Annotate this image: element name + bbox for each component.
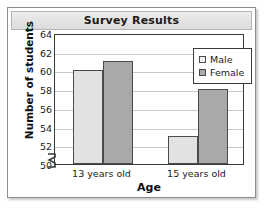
legend-label-female: Female <box>210 67 244 78</box>
legend-swatch-female-icon <box>199 69 206 76</box>
y-axis-tick-label: 52 <box>40 141 52 152</box>
bar-male-0 <box>73 70 103 164</box>
chart-legend: Male Female <box>193 48 252 84</box>
legend-item-female: Female <box>199 66 244 79</box>
bar-female-1 <box>198 89 228 164</box>
y-axis-tick-label: 54 <box>40 122 52 133</box>
bar-female-0 <box>103 61 133 164</box>
y-axis-tick-label: 62 <box>40 47 52 58</box>
legend-item-male: Male <box>199 53 244 66</box>
x-axis-category-label: 15 years old <box>167 168 226 179</box>
x-axis-category-label: 13 years old <box>72 168 131 179</box>
y-axis-tick-label: 60 <box>40 66 52 77</box>
chart-figure: Survey Results Number of students 646260… <box>7 7 256 198</box>
bar-male-1 <box>168 136 198 164</box>
chart-title-bar: Survey Results <box>11 11 252 30</box>
y-axis-tick-label: 64 <box>40 29 52 40</box>
y-axis-tick-label: 56 <box>40 103 52 114</box>
axis-break-icon <box>46 153 62 169</box>
y-axis-tick-labels: 6462605856545250 <box>30 34 52 165</box>
legend-label-male: Male <box>210 54 233 65</box>
y-axis-tick-label: 58 <box>40 85 52 96</box>
page-title: Survey Results <box>84 14 180 27</box>
legend-swatch-male-icon <box>199 56 206 63</box>
x-axis-label: Age <box>54 181 244 194</box>
